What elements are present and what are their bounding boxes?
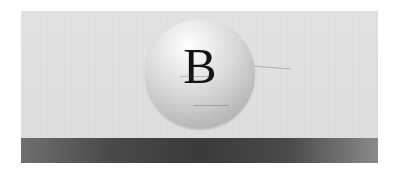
banner-panel: B (21, 11, 378, 163)
decorative-streak (193, 105, 229, 106)
ball-letter: B (145, 41, 255, 91)
decorative-streak (180, 76, 210, 77)
bottom-band (21, 138, 378, 163)
sphere-graphic: B (145, 19, 255, 129)
